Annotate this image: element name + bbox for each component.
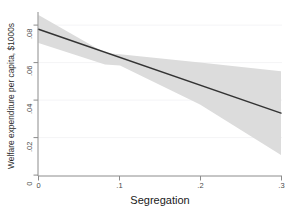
x-tick-marks	[39, 176, 282, 181]
x-tick-label-0.2: .2	[190, 182, 211, 190]
x-tick-label-0: 0	[28, 182, 49, 190]
y-tick-label-0.04: .04	[26, 100, 34, 118]
x-tick-label-0.1: .1	[109, 182, 130, 190]
y-tick-label-0.06: .06	[26, 62, 34, 80]
y-tick-label-0.08: .08	[26, 25, 34, 43]
x-tick-label-0.3: .3	[271, 182, 292, 190]
y-tick-label-0.02: .02	[26, 138, 34, 156]
chart-figure: .08 .06 .04 .02 0 0 .1 .2 .3 Welfare exp…	[0, 0, 294, 215]
x-axis-title: Segregation	[38, 193, 282, 207]
y-axis-title: Welfare expenditure per capita, $1000s	[4, 6, 18, 186]
y-tick-marks	[34, 25, 39, 175]
